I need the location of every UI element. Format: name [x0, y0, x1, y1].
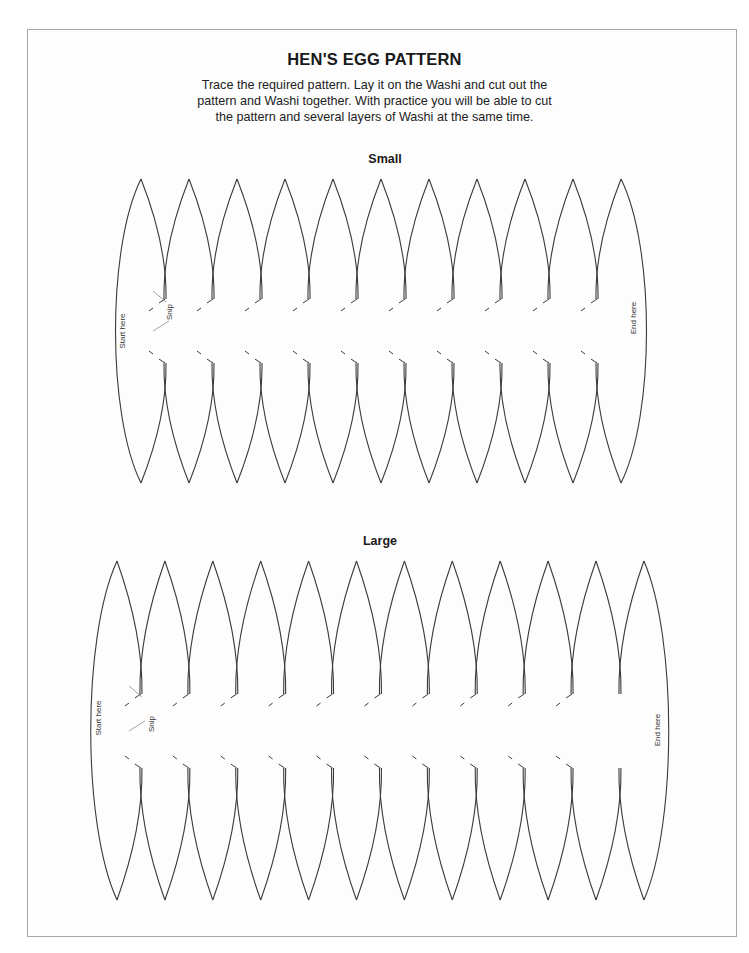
- start-here-label: Start here: [94, 700, 103, 736]
- large-egg-pattern: Start hereEnd hereSnip: [91, 561, 669, 900]
- end-here-label: End here: [629, 301, 638, 334]
- start-here-label: Start here: [118, 313, 127, 349]
- end-here-label: End here: [653, 713, 662, 746]
- egg-patterns-drawing: Start hereEnd hereSnip Start hereEnd her…: [0, 0, 749, 953]
- snip-label: Snip: [165, 303, 174, 320]
- small-egg-pattern: Start hereEnd hereSnip: [116, 179, 647, 483]
- snip-label: Snip: [147, 715, 156, 732]
